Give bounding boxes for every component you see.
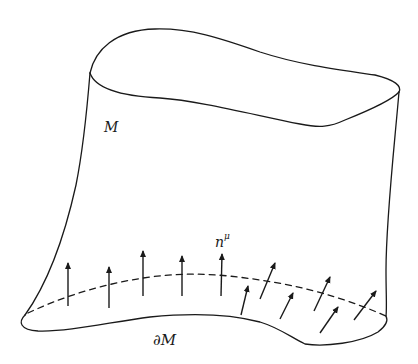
normal-arrow-icon <box>314 277 330 311</box>
normal-arrow-icon <box>221 254 222 296</box>
boundary-label: ∂M <box>153 333 176 348</box>
top-cap-back-edge <box>90 29 400 92</box>
manifold-drawing <box>0 0 418 364</box>
normal-arrow-icon <box>241 286 248 315</box>
normal-arrow-icon <box>320 307 338 333</box>
normal-vector-superscript: μ <box>224 231 230 241</box>
normal-vector-base: n <box>215 234 224 250</box>
right-side-edge <box>386 92 399 316</box>
normal-arrow-icon <box>260 263 275 299</box>
manifold-label: M <box>104 120 118 134</box>
left-side-edge <box>25 73 90 315</box>
normal-arrow-icon <box>280 293 293 319</box>
normal-vector-label: nμ <box>215 234 230 249</box>
manifold-diagram: M nμ ∂M <box>0 0 418 364</box>
normal-arrow-icon <box>354 291 376 320</box>
top-cap-front-edge <box>90 73 399 126</box>
normal-vectors <box>68 251 376 333</box>
bottom-boundary-dashed <box>28 274 386 316</box>
bottom-boundary-edge <box>21 315 386 345</box>
